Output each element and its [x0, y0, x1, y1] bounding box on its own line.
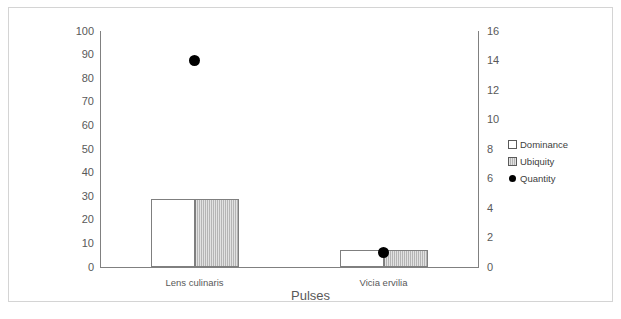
legend-item-ubiquity[interactable]: Ubiquity — [508, 153, 578, 170]
bar-ubiquity-1 — [384, 250, 428, 267]
legend-label-dominance: Dominance — [520, 140, 568, 150]
category-axis-line — [100, 267, 479, 268]
left-axis-tick-labels: 0102030405060708090100 — [62, 0, 94, 319]
right-axis-tick-12: 12 — [487, 85, 499, 96]
datapoint-quantity-0 — [189, 55, 200, 66]
right-axis-tick-14: 14 — [487, 55, 499, 66]
right-axis-tick-10: 10 — [487, 114, 499, 125]
right-axis-tick-16: 16 — [487, 26, 499, 37]
x-axis-title: Pulses — [0, 288, 621, 303]
chart-legend: DominanceUbiquityQuantity — [508, 136, 578, 187]
left-axis-tick-100: 100 — [76, 26, 94, 37]
left-axis-tick-40: 40 — [82, 167, 94, 178]
bar-dominance-0 — [151, 199, 195, 267]
left-axis-tick-0: 0 — [88, 262, 94, 273]
right-axis-tick-4: 4 — [487, 203, 493, 214]
left-axis-tick-50: 50 — [82, 144, 94, 155]
legend-label-quantity: Quantity — [520, 174, 555, 184]
legend-item-dominance[interactable]: Dominance — [508, 136, 578, 153]
left-axis-tick-10: 10 — [82, 238, 94, 249]
black-circle-icon — [509, 175, 516, 182]
right-axis-tick-2: 2 — [487, 232, 493, 243]
plot-area — [100, 31, 478, 267]
left-axis-tick-90: 90 — [82, 49, 94, 60]
right-axis-tick-6: 6 — [487, 173, 493, 184]
right-axis-tick-0: 0 — [487, 262, 493, 273]
chart-figure: 0102030405060708090100 0246810121416 Len… — [0, 0, 621, 319]
right-axis-tick-8: 8 — [487, 144, 493, 155]
left-axis-tick-70: 70 — [82, 96, 94, 107]
legend-label-ubiquity: Ubiquity — [520, 157, 554, 167]
left-axis-tick-30: 30 — [82, 191, 94, 202]
bar-dominance-1 — [340, 250, 384, 267]
hatched-square-icon — [508, 157, 517, 166]
category-label-1: Vicia ervilia — [360, 277, 408, 288]
bar-ubiquity-0 — [195, 199, 239, 267]
white-square-icon — [508, 140, 517, 149]
left-axis-tick-80: 80 — [82, 73, 94, 84]
right-axis-line — [478, 31, 479, 268]
left-axis-tick-60: 60 — [82, 120, 94, 131]
legend-item-quantity[interactable]: Quantity — [508, 170, 578, 187]
category-label-0: Lens culinaris — [165, 277, 223, 288]
datapoint-quantity-1 — [378, 247, 389, 258]
left-axis-tick-20: 20 — [82, 214, 94, 225]
